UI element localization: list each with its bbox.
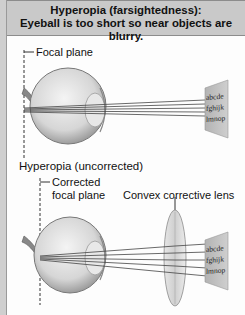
uncorrected-caption: Hyperopia (uncorrected) bbox=[19, 160, 143, 172]
top-card-text: abcde fghijk lmnop bbox=[206, 90, 230, 125]
eye-lens-icon bbox=[85, 241, 105, 275]
top-uncorrected-diagram bbox=[22, 50, 228, 160]
bottom-card-text: abcde fghijk lmnop bbox=[206, 242, 230, 277]
card-line-3: lmnop bbox=[206, 112, 230, 125]
corrected-label-line1: Corrected bbox=[52, 176, 100, 188]
eye-lens-icon bbox=[85, 93, 105, 127]
card-line-3: lmnop bbox=[206, 264, 230, 277]
figure-frame: Hyperopia (farsightedness): Eyeball is t… bbox=[0, 0, 245, 315]
focal-plane-label: Focal plane bbox=[36, 46, 93, 58]
convex-lens-label: Convex corrective lens bbox=[123, 189, 234, 201]
corrected-label-line2: focal plane bbox=[52, 189, 105, 201]
